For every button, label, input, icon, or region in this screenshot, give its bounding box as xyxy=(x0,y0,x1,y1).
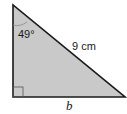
hypotenuse-label: 9 cm xyxy=(72,40,96,52)
base-label: b xyxy=(66,98,73,113)
triangle-shape xyxy=(13,5,125,97)
triangle-diagram: 49° 9 cm b xyxy=(0,0,127,114)
angle-label: 49° xyxy=(18,28,35,40)
